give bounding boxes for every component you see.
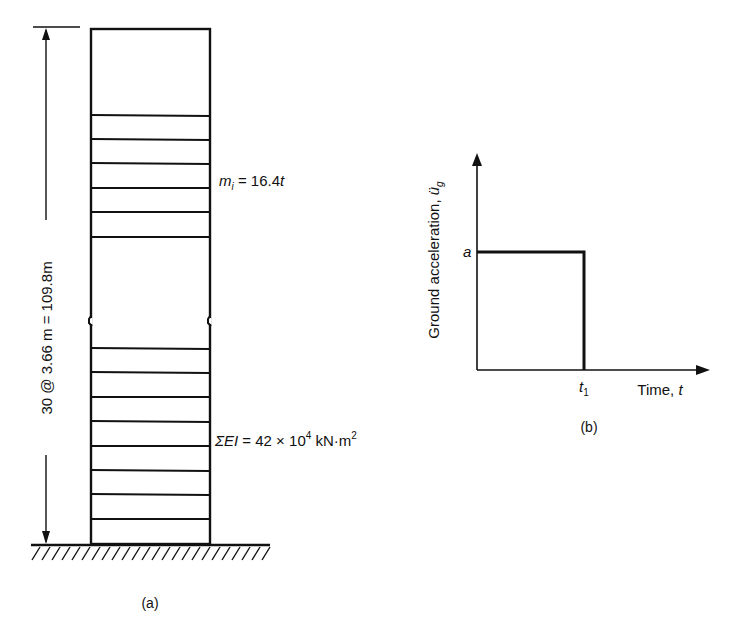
building-frame (91, 29, 210, 544)
lower-floor-lines (91, 348, 210, 519)
time-t1-label: t1 (579, 378, 589, 398)
caption-a: (a) (141, 595, 158, 611)
upper-floor-lines (91, 115, 210, 237)
x-axis-label: Time, t (637, 381, 683, 398)
figure-b: a t1 Time, t Ground acceleration, üg (b) (425, 153, 710, 435)
height-dimension: 30 @ 3.66 m = 109.8m (33, 27, 80, 544)
figure-a: 30 @ 3.66 m = 109.8m mi = 16.4t ΣEI = 42… (31, 27, 357, 611)
y-axis-label: Ground acceleration, üg (425, 181, 445, 339)
diagram-canvas: 30 @ 3.66 m = 109.8m mi = 16.4t ΣEI = 42… (0, 0, 744, 630)
pulse-line (477, 252, 584, 370)
x-axis-arrow-icon (696, 365, 710, 375)
ground-hatch (31, 545, 270, 560)
arrow-up-icon (42, 28, 50, 40)
y-axis-arrow-icon (472, 153, 482, 166)
break-marks (91, 318, 210, 324)
level-a-label: a (463, 243, 471, 260)
caption-b: (b) (580, 419, 597, 435)
height-dimension-label: 30 @ 3.66 m = 109.8m (38, 261, 55, 414)
mass-label: mi = 16.4t (219, 172, 285, 192)
arrow-down-icon (42, 531, 50, 544)
stiffness-label: ΣEI = 42 × 104 kN·m2 (214, 430, 357, 449)
